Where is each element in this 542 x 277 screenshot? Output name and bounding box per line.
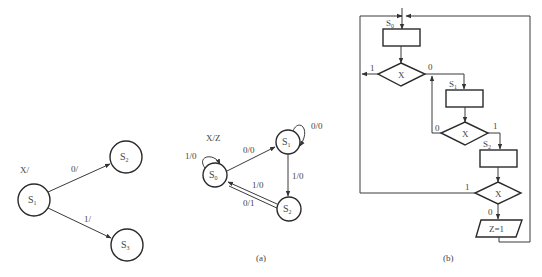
caption-a: (a) [256,253,266,263]
svg-text:0/1: 0/1 [243,198,255,208]
state-box-s2 [480,150,517,167]
svg-text:0: 0 [488,207,493,217]
transition-s1-s2 [48,164,110,192]
state-s2: S2 [110,141,142,173]
svg-text:1/0: 1/0 [185,151,197,161]
state-box-s0 [383,29,420,46]
state-diagram-a: X/Z 1/0 0/0 0/0 1/0 1/0 0/1 S0 S1 S2 (a) [185,121,323,263]
svg-text:X: X [398,70,405,80]
state-s2: S2 [277,197,301,221]
svg-text:1: 1 [465,182,470,192]
state-s1: S1 [276,130,300,154]
svg-text:1: 1 [493,121,498,131]
svg-text:X: X [462,129,469,139]
a-header-label: X/Z [206,133,221,143]
svg-text:1: 1 [370,63,375,73]
svg-text:S1: S1 [449,79,457,90]
left-state-diagram: X/ 0/ 1/ S1 S2 S3 [18,141,143,261]
transition-label-0: 0/ [71,164,79,174]
svg-text:S2: S2 [483,139,491,150]
state-s3: S3 [111,229,143,261]
transition-s1-s3 [48,208,111,238]
transition-label-1: 1/ [84,214,92,224]
svg-text:1/0: 1/0 [252,180,264,190]
state-s1: S1 [18,184,50,216]
diagram-canvas: X/ 0/ 1/ S1 S2 S3 X/Z 1/0 0/0 0/0 1/0 [0,0,542,277]
svg-text:0/0: 0/0 [311,121,323,131]
state-s0: S0 [203,163,227,187]
svg-text:0: 0 [435,123,440,133]
state-box-s1 [446,90,483,107]
svg-text:1/0: 1/0 [292,171,304,181]
left-header-label: X/ [20,165,29,175]
flowchart-b: S0 X 1 0 S1 X 0 1 S2 X 1 0 Z=1 [360,8,530,263]
svg-text:Z=1: Z=1 [489,224,504,234]
caption-b: (b) [443,253,454,263]
svg-text:S0: S0 [386,18,394,29]
svg-text:0/0: 0/0 [243,145,255,155]
svg-text:0: 0 [428,62,433,72]
svg-text:X: X [495,189,502,199]
